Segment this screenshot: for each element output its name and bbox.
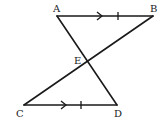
segment-bc [24, 16, 153, 105]
label-d: D [114, 108, 122, 119]
segment-ad [57, 16, 117, 105]
label-e: E [74, 55, 81, 66]
label-a: A [52, 3, 61, 14]
label-c: C [16, 108, 24, 119]
label-b: B [150, 3, 157, 14]
geometry-diagram: A B E C D [0, 0, 167, 126]
